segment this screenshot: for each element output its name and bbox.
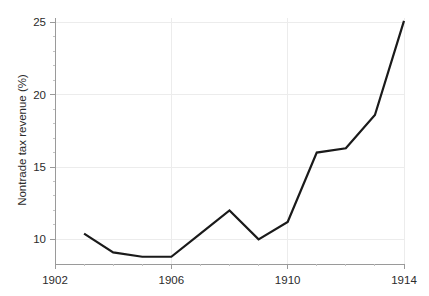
- y-axis-tick-labels: 10152025: [33, 16, 46, 245]
- chart-canvas: 1902190619101914 10152025 Nontrade tax r…: [0, 0, 429, 296]
- x-tick-label: 1910: [275, 274, 301, 286]
- y-axis-title: Nontrade tax revenue (%): [16, 74, 28, 206]
- data-series-line: [84, 21, 404, 257]
- line-chart: 1902190619101914 10152025 Nontrade tax r…: [0, 0, 429, 296]
- y-tick-group: [50, 22, 55, 239]
- y-tick-label: 10: [33, 233, 46, 245]
- x-tick-label: 1906: [159, 274, 185, 286]
- x-tick-label: 1914: [391, 274, 417, 286]
- y-tick-label: 20: [33, 89, 46, 101]
- x-tick-label: 1902: [42, 274, 68, 286]
- y-tick-label: 15: [33, 161, 46, 173]
- x-axis-tick-labels: 1902190619101914: [42, 274, 417, 286]
- y-tick-label: 25: [33, 16, 46, 28]
